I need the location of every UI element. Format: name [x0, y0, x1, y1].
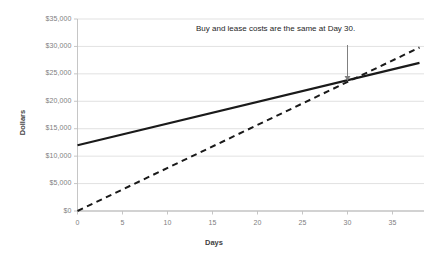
x-axis-tick-label: 5	[108, 219, 138, 226]
y-axis-tick-label: $30,000	[8, 42, 72, 49]
x-axis-tick-label: 20	[243, 219, 273, 226]
line-chart: $0$5,000$10,000$15,000$20,000$25,000$30,…	[0, 0, 442, 261]
x-axis-title: Days	[205, 238, 223, 247]
x-axis-tick-label: 35	[378, 219, 408, 226]
y-axis-title: Dollars	[18, 93, 27, 153]
y-axis-tick-label: $35,000	[8, 15, 72, 22]
x-axis-tick-label: 30	[333, 219, 363, 226]
y-axis-tick-label: $25,000	[8, 69, 72, 76]
x-axis-tick-label: 25	[288, 219, 318, 226]
series-line-buy	[78, 63, 420, 145]
y-axis-tick-label: $10,000	[8, 152, 72, 159]
x-axis-tick-label: 0	[63, 219, 93, 226]
x-axis-tick-label: 10	[153, 219, 183, 226]
series-line-lease	[78, 48, 420, 211]
annotation-label: Buy and lease costs are the same at Day …	[196, 24, 355, 33]
x-axis-tick-label: 15	[198, 219, 228, 226]
y-axis-tick-label: $5,000	[8, 179, 72, 186]
y-axis-tick-label: $0	[8, 207, 72, 214]
